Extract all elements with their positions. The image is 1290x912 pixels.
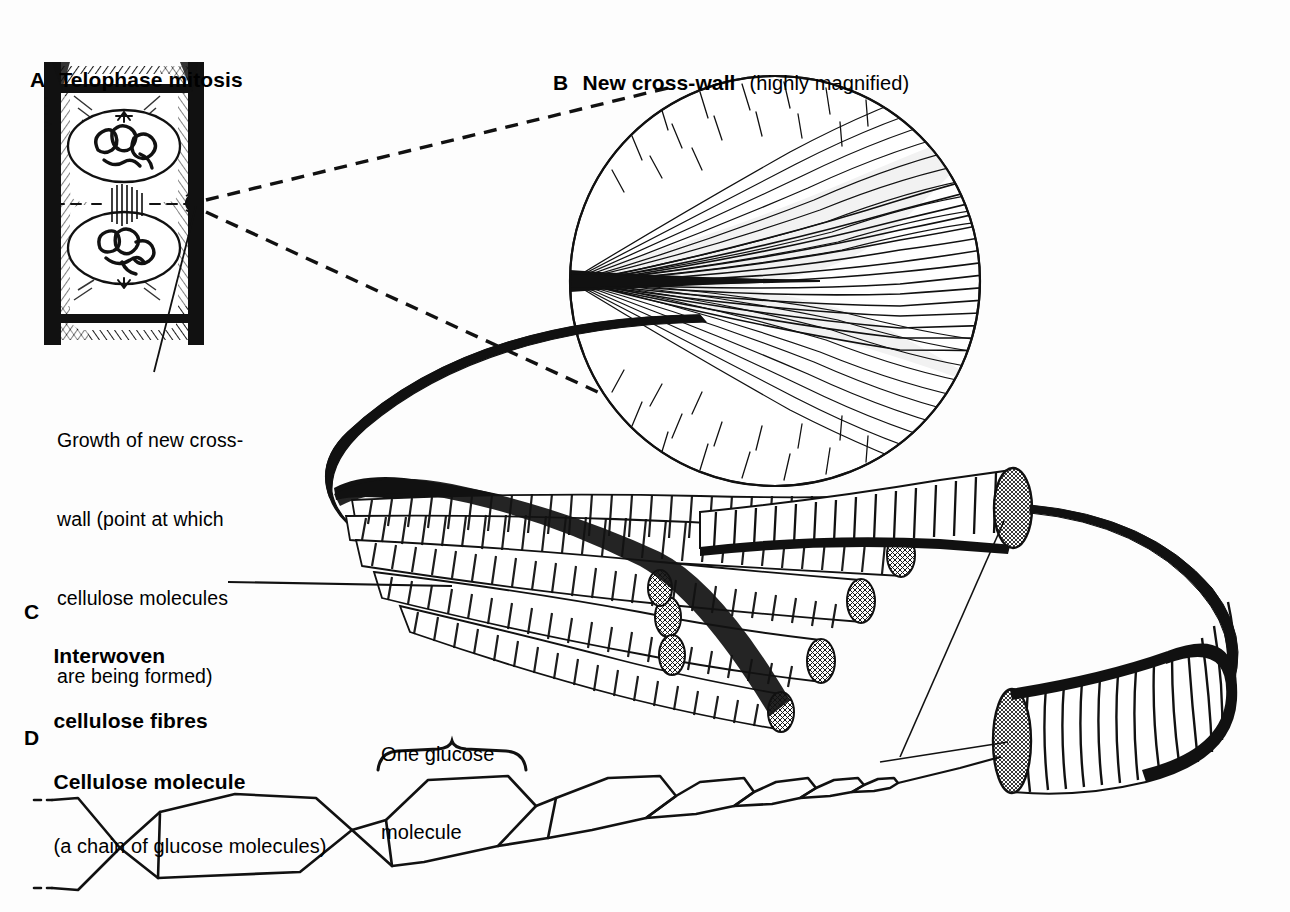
panel-c-letter: C <box>24 599 39 625</box>
figure-root: A Telophase mitosis Growth of new cross-… <box>0 0 1290 912</box>
panel-a-annotation-line-1: Growth of new cross- <box>57 427 322 453</box>
panel-b-subtitle: (highly magnified) <box>750 71 910 95</box>
panel-a-letter: A <box>30 67 45 93</box>
panel-d-title: Cellulose molecule <box>53 769 326 795</box>
panel-a-heading: A Telophase mitosis <box>30 28 243 132</box>
panel-b-title: New cross-wall <box>582 70 735 96</box>
glucose-callout-line-2: molecule <box>381 819 494 845</box>
panel-d-letter: D <box>24 725 39 751</box>
panel-d-heading: D Cellulose molecule (a chain of glucose… <box>24 686 327 912</box>
panel-b-letter: B <box>553 70 568 96</box>
glucose-callout: One glucose molecule <box>381 689 494 897</box>
panel-d-subtitle: (a chain of glucose molecules) <box>53 834 326 858</box>
glucose-callout-line-1: One glucose <box>381 741 494 767</box>
spiral-fibre-lower <box>993 602 1236 794</box>
panel-c-title-line-1: Interwoven <box>53 643 208 669</box>
panel-b-heading: B New cross-wall (highly magnified) <box>553 31 909 135</box>
panel-b-crosswall-circle <box>570 76 1000 486</box>
panel-a-annotation-line-2: wall (point at which <box>57 506 322 532</box>
panel-a-title: Telophase mitosis <box>59 67 242 93</box>
